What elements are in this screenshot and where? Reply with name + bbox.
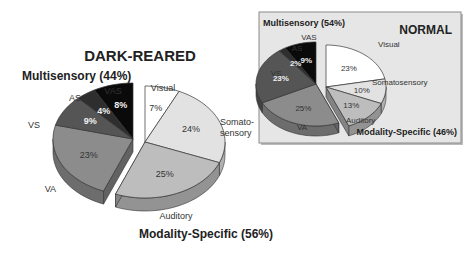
value-label-visual: 7% bbox=[149, 103, 162, 113]
category-label-vs: VS bbox=[271, 69, 282, 78]
category-label-va: VA bbox=[45, 184, 56, 194]
value-label-somatosensory: 10% bbox=[354, 86, 370, 95]
category-label-va: VA bbox=[297, 123, 308, 132]
category-label-as: AS bbox=[69, 93, 81, 103]
normal-title: NORMAL bbox=[399, 23, 452, 37]
category-label-vs: VS bbox=[28, 120, 40, 130]
dark-reared-multisensory-label: Multisensory (44%) bbox=[22, 69, 131, 83]
category-label-vas: VAS bbox=[104, 86, 121, 96]
value-label-va: 25% bbox=[295, 104, 311, 113]
dark-reared-pie: 7%Visual24%Somato-sensory25%Auditory23%V… bbox=[28, 83, 254, 221]
category-label-somatosensory: Somato-sensory bbox=[220, 117, 254, 138]
normal-multisensory-label: Multisensory (54%) bbox=[263, 18, 345, 28]
value-label-auditory: 13% bbox=[343, 101, 359, 110]
normal-modality-specific-label: Modality-Specific (46%) bbox=[356, 127, 457, 137]
dark-reared-title: DARK-REARED bbox=[84, 47, 196, 64]
value-label-auditory: 25% bbox=[156, 169, 174, 179]
category-label-somatosensory: Somatosensory bbox=[372, 78, 428, 87]
value-label-as: 4% bbox=[97, 106, 110, 116]
value-label-vs: 9% bbox=[84, 116, 97, 126]
category-label-visual: Visual bbox=[378, 40, 400, 49]
category-label-vas: VAS bbox=[301, 33, 316, 42]
category-label-auditory: Auditory bbox=[159, 211, 193, 221]
value-label-vas: 9% bbox=[301, 56, 313, 65]
value-label-va: 23% bbox=[80, 150, 98, 160]
category-label-visual: Visual bbox=[151, 83, 175, 93]
value-label-visual: 23% bbox=[341, 64, 357, 73]
value-label-somatosensory: 24% bbox=[182, 124, 200, 134]
value-label-vas: 8% bbox=[114, 100, 127, 110]
category-label-as: AS bbox=[292, 44, 303, 53]
figure: 7%Visual24%Somato-sensory25%Auditory23%V… bbox=[0, 0, 472, 256]
category-label-auditory: Auditory bbox=[346, 116, 375, 125]
dark-reared-modality-specific-label: Modality-Specific (56%) bbox=[139, 227, 273, 241]
